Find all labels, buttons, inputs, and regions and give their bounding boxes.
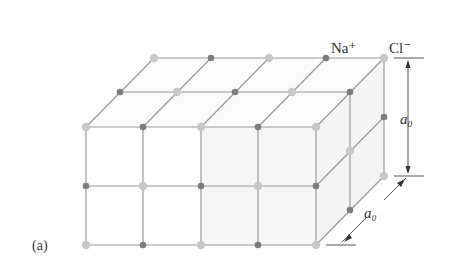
face-shading (86, 58, 384, 245)
vertical-dimension-label: a₀ (400, 111, 413, 127)
nacl-lattice-diagram: Na⁺ Cl⁻ a₀ a₀ (a) (0, 0, 455, 271)
panel-label: (a) (32, 238, 48, 254)
chloride-ion-label: Cl⁻ (389, 40, 411, 56)
sodium-ion-label: Na⁺ (331, 40, 356, 56)
depth-dimension-label: a₀ (364, 205, 377, 221)
